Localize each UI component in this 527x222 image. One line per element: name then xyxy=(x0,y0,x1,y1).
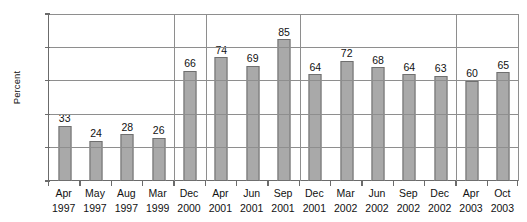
bar-value-label: 33 xyxy=(59,113,71,124)
x-label-year: 1999 xyxy=(142,201,173,216)
gridline xyxy=(49,114,518,115)
bar-slot: 69 xyxy=(237,14,268,181)
bar xyxy=(121,134,134,181)
group-separator-line xyxy=(174,14,175,181)
x-category-label: Mar1999 xyxy=(142,186,173,216)
x-label-month: Apr xyxy=(48,186,79,201)
bar xyxy=(215,57,228,181)
x-category-label: Mar2002 xyxy=(330,186,361,216)
x-category-label: Jun2002 xyxy=(361,186,392,216)
bar-slot: 66 xyxy=(174,14,205,181)
bar-slot: 68 xyxy=(362,14,393,181)
bar-value-label: 28 xyxy=(121,122,133,133)
y-axis-title: Percent xyxy=(11,53,22,123)
bar-slot: 85 xyxy=(268,14,299,181)
bar-slot: 24 xyxy=(80,14,111,181)
x-label-month: Oct xyxy=(487,186,518,201)
bar xyxy=(309,74,322,181)
bar xyxy=(371,67,384,181)
x-category-label: Dec2000 xyxy=(173,186,204,216)
bar xyxy=(58,126,71,181)
x-label-month: Dec xyxy=(424,186,455,201)
x-label-month: Jun xyxy=(236,186,267,201)
bar-slot: 74 xyxy=(206,14,237,181)
plot-right-border xyxy=(518,14,519,181)
bar-slot: 65 xyxy=(488,14,519,181)
bar xyxy=(465,81,478,181)
y-tick-mark xyxy=(45,13,50,14)
bar xyxy=(183,71,196,181)
bar-value-label: 64 xyxy=(403,62,415,73)
bar-value-label: 72 xyxy=(341,48,353,59)
bar-value-label: 64 xyxy=(309,62,321,73)
x-category-label: Dec2001 xyxy=(299,186,330,216)
x-label-month: Dec xyxy=(299,186,330,201)
x-label-month: Mar xyxy=(330,186,361,201)
bar-slot: 33 xyxy=(49,14,80,181)
x-label-year: 2002 xyxy=(361,201,392,216)
x-label-month: Sep xyxy=(393,186,424,201)
x-label-month: Dec xyxy=(173,186,204,201)
x-label-year: 1997 xyxy=(79,201,110,216)
y-tick-mark xyxy=(45,114,50,115)
x-label-year: 2002 xyxy=(330,201,361,216)
bar-value-label: 63 xyxy=(435,63,447,74)
x-label-year: 2001 xyxy=(236,201,267,216)
x-label-year: 2001 xyxy=(299,201,330,216)
group-separator-line xyxy=(300,14,301,181)
x-category-label: Apr2001 xyxy=(205,186,236,216)
gridline xyxy=(49,147,518,148)
x-label-month: Apr xyxy=(205,186,236,201)
bar xyxy=(497,72,510,181)
bar-slot: 28 xyxy=(112,14,143,181)
gridline xyxy=(49,14,518,15)
bar-slot: 26 xyxy=(143,14,174,181)
x-category-label: Dec2002 xyxy=(424,186,455,216)
gridline xyxy=(49,80,518,81)
x-category-label: Sep2002 xyxy=(393,186,424,216)
x-label-year: 2003 xyxy=(455,201,486,216)
bar-value-label: 24 xyxy=(90,128,102,139)
x-label-year: 2001 xyxy=(267,201,298,216)
x-label-month: Sep xyxy=(267,186,298,201)
x-category-label: Jun2001 xyxy=(236,186,267,216)
y-tick-mark xyxy=(45,80,50,81)
bar-chart: Percent 332428266674698564726864636065 0… xyxy=(0,0,527,222)
x-label-year: 2003 xyxy=(487,201,518,216)
bar xyxy=(403,74,416,181)
gridline xyxy=(49,47,518,48)
x-category-label: Apr2003 xyxy=(455,186,486,216)
x-axis-labels: Apr1997May1997Aug1997Mar1999Dec2000Apr20… xyxy=(48,186,518,220)
x-category-label: Oct2003 xyxy=(487,186,518,216)
x-category-label: Sep2001 xyxy=(267,186,298,216)
x-label-month: Jun xyxy=(361,186,392,201)
x-label-year: 2002 xyxy=(424,201,455,216)
bar-value-label: 65 xyxy=(497,60,509,71)
bar xyxy=(152,138,165,181)
x-label-year: 2001 xyxy=(205,201,236,216)
bar xyxy=(434,76,447,181)
group-separator-line xyxy=(206,14,207,181)
x-label-year: 1997 xyxy=(48,201,79,216)
bar-series: 332428266674698564726864636065 xyxy=(49,14,518,181)
bar-value-label: 85 xyxy=(278,27,290,38)
bar-value-label: 68 xyxy=(372,55,384,66)
bar-slot: 64 xyxy=(300,14,331,181)
bar xyxy=(246,66,259,181)
plot-area: 332428266674698564726864636065 xyxy=(48,14,518,181)
y-tick-mark xyxy=(45,47,50,48)
x-category-label: Aug1997 xyxy=(111,186,142,216)
x-label-year: 2000 xyxy=(173,201,204,216)
bar-value-label: 60 xyxy=(466,68,478,79)
x-label-year: 2002 xyxy=(393,201,424,216)
x-category-label: Apr1997 xyxy=(48,186,79,216)
y-tick-mark xyxy=(45,147,50,148)
bar xyxy=(277,39,290,181)
bar-value-label: 66 xyxy=(184,58,196,69)
bar-slot: 72 xyxy=(331,14,362,181)
bar-value-label: 26 xyxy=(153,125,165,136)
x-label-month: May xyxy=(79,186,110,201)
bar-value-label: 69 xyxy=(247,53,259,64)
x-label-month: Apr xyxy=(455,186,486,201)
x-label-month: Aug xyxy=(111,186,142,201)
